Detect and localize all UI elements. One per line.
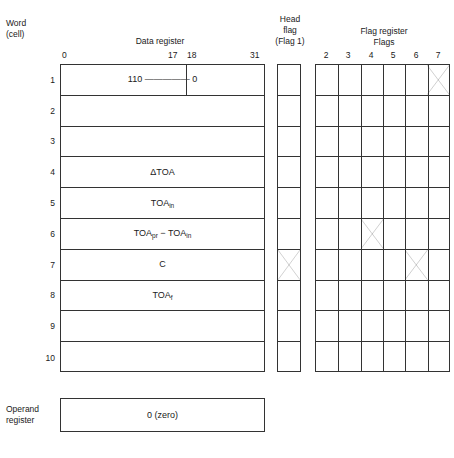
operand-register-value: 0 (zero) xyxy=(147,410,178,421)
cross-mark-icon xyxy=(405,250,428,280)
flag-register-caption: Flag register Flags xyxy=(322,26,446,48)
word-number-4: 4 xyxy=(35,167,55,177)
flag-register-row xyxy=(316,127,449,158)
cross-mark-icon xyxy=(361,219,384,249)
data-cell-word-7: C xyxy=(159,259,166,270)
head-flag-row xyxy=(278,188,300,219)
word-cell-caption: Word (cell) xyxy=(6,18,54,40)
data-register-row: 2 xyxy=(61,96,264,127)
head-flag-row xyxy=(278,127,300,158)
data-cell-word-6-base: TOA xyxy=(134,228,152,238)
cross-mark-icon xyxy=(278,250,300,280)
word-number-6: 6 xyxy=(35,229,55,239)
flag-column-tick-4: 4 xyxy=(360,50,382,60)
data-cell-word-6-base2: − TOA xyxy=(158,228,186,238)
flag-register-grid xyxy=(315,64,450,372)
operand-register-row: 0 (zero) xyxy=(61,399,264,431)
data-register-row: 9 xyxy=(61,311,264,342)
data-cell-word-8: TOAf xyxy=(152,290,172,301)
flag-register-row xyxy=(316,250,449,281)
head-flag-row-marked xyxy=(278,250,300,281)
head-flag-caption: Head flag (Flag 1) xyxy=(268,14,312,47)
flag-column-tick-2: 2 xyxy=(315,50,337,60)
data-cell-word-6: TOApr − TOAin xyxy=(134,228,192,239)
data-cell-word-8-subscript: f xyxy=(171,294,173,301)
word-number-1: 1 xyxy=(35,75,55,85)
word-number-10: 10 xyxy=(35,353,55,363)
head-flag-row xyxy=(278,281,300,312)
cross-mark-icon xyxy=(427,65,450,95)
flag-register-row xyxy=(316,157,449,188)
flag-register-row xyxy=(316,342,449,373)
flag-register-row xyxy=(316,96,449,127)
word-number-8: 8 xyxy=(35,290,55,300)
flag-register-row xyxy=(316,281,449,312)
bit-tick-17: 17 xyxy=(168,50,177,60)
flag-register-row xyxy=(316,219,449,250)
head-flag-row xyxy=(278,96,300,127)
data-register-row: 4 ΔTOA xyxy=(61,157,264,188)
data-register-row: 1 110 ————— 0 xyxy=(61,65,264,96)
flag-column-tick-6: 6 xyxy=(405,50,427,60)
data-cell-word-4: ΔTOA xyxy=(150,167,174,178)
head-flag-grid xyxy=(277,64,301,372)
head-flag-row xyxy=(278,219,300,250)
flag-column-tick-3: 3 xyxy=(337,50,359,60)
operand-caption-line1: Operand xyxy=(6,404,56,415)
data-cell-word-8-base: TOA xyxy=(152,290,170,300)
data-register-row: 3 xyxy=(61,127,264,158)
data-cell-word-5-base: TOA xyxy=(151,198,169,208)
head-flag-row xyxy=(278,157,300,188)
operand-caption-line2: register xyxy=(6,415,56,426)
head-flag-row xyxy=(278,65,300,96)
operand-register-grid: 0 (zero) xyxy=(60,398,265,432)
data-register-row: 10 xyxy=(61,342,264,373)
data-register-row: 5 TOAin xyxy=(61,188,264,219)
word-caption-line2: (cell) xyxy=(6,29,54,40)
data-register-row: 6 TOApr − TOAin xyxy=(61,219,264,250)
flag-register-row xyxy=(316,311,449,342)
flag-cell-row1-col7 xyxy=(427,65,450,95)
bit-tick-31: 31 xyxy=(250,50,259,60)
data-cell-word-6-subscript2: in xyxy=(186,232,191,239)
data-cell-word-5-subscript: in xyxy=(169,202,174,209)
register-layout-diagram: Word (cell) Data register Head flag (Fla… xyxy=(0,0,454,458)
word-number-7: 7 xyxy=(35,260,55,270)
head-flag-caption-line2: flag xyxy=(268,25,312,36)
data-register-row: 7 C xyxy=(61,250,264,281)
data-cell-word-6-subscript: pr xyxy=(152,232,158,239)
word-number-2: 2 xyxy=(35,106,55,116)
flag-column-tick-7: 7 xyxy=(427,50,449,60)
bit-tick-0: 0 xyxy=(62,50,67,60)
head-flag-row xyxy=(278,311,300,342)
word-number-5: 5 xyxy=(35,198,55,208)
operand-register-caption: Operand register xyxy=(6,404,56,426)
data-register-grid: 1 110 ————— 0 2 3 4 ΔTOA 5 TOAin 6 TOApr… xyxy=(60,64,265,372)
data-register-caption: Data register xyxy=(80,36,240,47)
head-flag-row xyxy=(278,342,300,373)
flag-cell-row7-col6 xyxy=(405,250,428,280)
bit-tick-18: 18 xyxy=(187,50,196,60)
word-number-9: 9 xyxy=(35,321,55,331)
data-cell-word-5: TOAin xyxy=(151,198,174,209)
flag-register-caption-line1: Flag register xyxy=(322,26,446,37)
flag-register-row xyxy=(316,65,449,96)
word-caption-line1: Word xyxy=(6,18,54,29)
flag-column-tick-5: 5 xyxy=(382,50,404,60)
bit-split-divider xyxy=(186,65,187,96)
flag-register-row xyxy=(316,188,449,219)
flag-cell-row6-col4 xyxy=(361,219,384,249)
word-number-3: 3 xyxy=(35,136,55,146)
flag-register-caption-line2: Flags xyxy=(322,37,446,48)
head-flag-caption-line1: Head xyxy=(268,14,312,25)
head-flag-caption-line3: (Flag 1) xyxy=(268,36,312,47)
data-register-row: 8 TOAf xyxy=(61,281,264,312)
